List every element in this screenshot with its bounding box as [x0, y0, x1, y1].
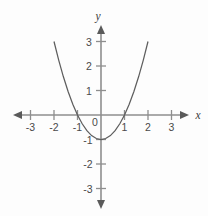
y-tick-label-1: 1 [86, 85, 92, 97]
x-tick-label-1: 1 [122, 121, 128, 133]
x-axis-right-arrow-icon [180, 111, 189, 119]
y-tick-label-2: 2 [86, 60, 92, 72]
x-tick-label-2: 2 [145, 121, 151, 133]
graph-figure: -3 -2 -1 1 2 3 0 3 2 1 -1 -2 -3 y x [0, 0, 208, 216]
x-axis-label: x [194, 109, 201, 121]
x-tick-label--1: -1 [73, 121, 82, 133]
y-axis-bottom-arrow-icon [97, 200, 105, 209]
x-tick-label-3: 3 [169, 121, 175, 133]
y-tick-label-3: 3 [86, 36, 92, 48]
origin-label: 0 [92, 116, 98, 128]
y-tick-label--3: -3 [83, 183, 92, 195]
y-tick-label--2: -2 [83, 158, 92, 170]
y-axis-top-arrow-icon [97, 25, 105, 34]
x-axis-left-arrow-icon [13, 111, 22, 119]
coordinate-plane-svg: -3 -2 -1 1 2 3 0 3 2 1 -1 -2 -3 y x [0, 0, 208, 216]
x-tick-label--3: -3 [26, 121, 35, 133]
x-tick-label--2: -2 [49, 121, 58, 133]
y-axis-label: y [94, 10, 101, 23]
